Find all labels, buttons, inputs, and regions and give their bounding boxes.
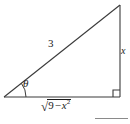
right-angle-marker-icon	[113, 90, 120, 97]
square-root-expression: √9−x2	[41, 99, 71, 112]
radicand: 9−x2	[47, 99, 71, 111]
triangle-figure: 3 θ x √9−x2	[0, 0, 130, 124]
triangle-side-hypotenuse	[4, 5, 120, 97]
radicand-operator: −	[54, 99, 62, 111]
angle-theta-label: θ	[23, 78, 28, 89]
hypotenuse-label: 3	[48, 38, 54, 49]
radicand-number: 9	[48, 99, 54, 111]
bottom-divider	[95, 118, 128, 119]
opposite-side-label: x	[121, 46, 125, 56]
radicand-exponent: 2	[67, 98, 71, 106]
adjacent-side-label: √9−x2	[41, 99, 71, 112]
